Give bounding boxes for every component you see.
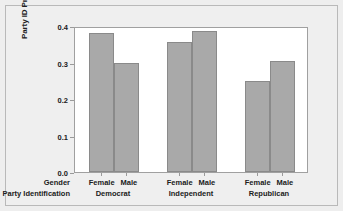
y-axis-title: Party ID Proportion xyxy=(18,0,32,39)
gender-label-male: Male xyxy=(121,177,138,188)
y-axis-tick-label: 0.2 xyxy=(58,96,68,105)
bar xyxy=(167,42,192,172)
party-group-label: Independent xyxy=(146,188,236,199)
gender-label-female: Female xyxy=(245,177,271,188)
bar xyxy=(89,33,114,172)
bar xyxy=(192,31,217,172)
bar xyxy=(270,61,295,172)
gender-subgroup-labels: Female Male xyxy=(224,177,314,188)
y-axis-tick-label: 0.1 xyxy=(58,132,68,141)
gender-subgroup-labels: Female Male xyxy=(68,177,158,188)
plot-area xyxy=(74,27,308,173)
x-axis-tick-mark xyxy=(179,173,180,176)
x-axis-group-labels: Female MaleDemocratFemale MaleIndependen… xyxy=(0,177,343,207)
y-axis-tick-label: 0.4 xyxy=(58,23,68,32)
x-axis-group: Female MaleRepublican xyxy=(224,177,314,199)
bars-layer xyxy=(75,28,307,172)
party-group-label: Democrat xyxy=(68,188,158,199)
y-axis-tick-label: 0.3 xyxy=(58,59,68,68)
gender-subgroup-labels: Female Male xyxy=(146,177,236,188)
gender-label-female: Female xyxy=(167,177,193,188)
x-axis-tick-mark xyxy=(257,173,258,176)
gender-label-male: Male xyxy=(277,177,294,188)
x-axis-tick-mark xyxy=(204,173,205,176)
party-group-label: Republican xyxy=(224,188,314,199)
chart-container: Party ID Proportion 0.00.10.20.30.4 Gend… xyxy=(0,0,343,211)
bar xyxy=(114,63,139,173)
x-axis-group: Female MaleDemocrat xyxy=(68,177,158,199)
x-axis-tick-mark xyxy=(126,173,127,176)
bar xyxy=(245,81,270,172)
gender-label-female: Female xyxy=(89,177,115,188)
x-axis-group: Female MaleIndependent xyxy=(146,177,236,199)
gender-label-male: Male xyxy=(199,177,216,188)
x-axis-tick-mark xyxy=(282,173,283,176)
x-axis-tick-mark xyxy=(101,173,102,176)
